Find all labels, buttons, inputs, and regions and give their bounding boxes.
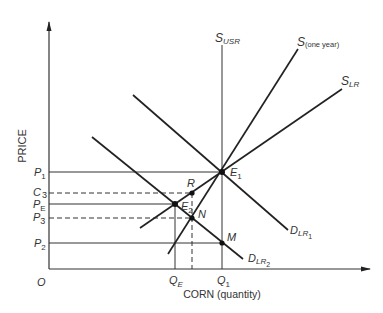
label-d-lr1: DLR1 [290,224,312,240]
svg-text:S(one year): S(one year) [297,35,340,49]
label-n: N [198,208,206,220]
label-s-lr: SLR [341,74,359,89]
label-e2: E2 [181,200,193,215]
d-lr1-curve [133,95,288,230]
svg-text:E2: E2 [181,200,193,215]
label-qe: QE [169,274,184,289]
label-d-lr2: DLR2 [248,252,270,268]
point-e1 [219,169,225,175]
svg-text:QE: QE [169,274,184,289]
label-q1: Q1 [217,274,231,289]
label-p1: P1 [34,166,46,181]
point-e2 [172,201,178,207]
svg-text:DLR1: DLR1 [290,224,312,240]
label-e1: E1 [230,166,242,181]
y-axis-label: PRICE [16,129,28,163]
svg-text:E1: E1 [230,166,242,181]
svg-text:SLR: SLR [341,74,359,89]
svg-text:P1: P1 [34,166,46,181]
point-n [189,215,194,220]
origin-label: O [37,276,46,288]
label-s-one-year: S(one year) [297,35,340,49]
label-p3: P3 [33,211,45,226]
x-axis-label: CORN (quantity) [183,288,261,300]
svg-text:Q1: Q1 [217,274,231,289]
d-lr2-curve [92,137,243,259]
s-lr-curve [140,89,342,228]
point-m [219,240,224,245]
corn-market-diagram: PRICE CORN (quantity) O P1 C3 PE P3 P2 Q… [0,0,383,313]
s-one-year-curve [168,49,298,254]
label-p2: P2 [34,237,46,252]
point-r [189,190,194,195]
svg-text:DLR2: DLR2 [248,252,270,268]
svg-text:SUSR: SUSR [215,31,240,46]
label-s-usr: SUSR [215,31,240,46]
label-m: M [227,231,237,243]
label-r: R [187,177,195,189]
svg-text:P3: P3 [33,211,45,226]
svg-text:P2: P2 [34,237,46,252]
